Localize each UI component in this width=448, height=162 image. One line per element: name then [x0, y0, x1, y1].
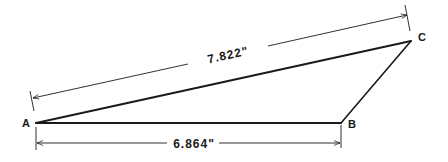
dimension-line-ac-left [33, 64, 188, 98]
extension-line-a-top [30, 91, 34, 111]
dimension-line-ac-right [268, 15, 407, 46]
extension-line-c [405, 5, 410, 31]
dimension-label-ab: 6.864" [173, 137, 215, 151]
vertex-label-c: C [418, 31, 426, 43]
triangle-diagram: 7.822" 6.864" A B C [0, 0, 448, 162]
vertex-label-a: A [22, 117, 30, 129]
vertex-label-b: B [348, 118, 356, 130]
dimension-label-ac: 7.822" [206, 44, 250, 67]
